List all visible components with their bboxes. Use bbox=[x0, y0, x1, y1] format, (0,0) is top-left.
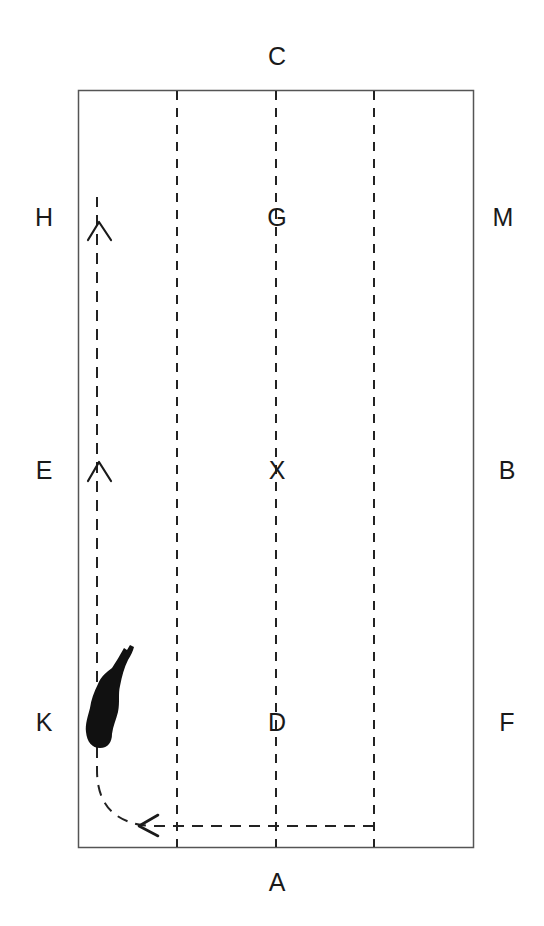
horse-silhouette-icon bbox=[86, 645, 134, 748]
marker-k: K bbox=[36, 710, 53, 735]
movement-path bbox=[97, 197, 374, 826]
arrow-up-icon bbox=[88, 222, 111, 240]
marker-g: G bbox=[267, 205, 286, 230]
dressage-arena-diagram: C H G M E X B K D F A bbox=[0, 0, 544, 926]
arrow-up-icon bbox=[88, 462, 111, 481]
marker-e: E bbox=[36, 458, 53, 483]
marker-x: X bbox=[269, 458, 286, 483]
marker-m: M bbox=[493, 205, 514, 230]
marker-f: F bbox=[499, 710, 514, 735]
marker-b: B bbox=[499, 458, 516, 483]
marker-a: A bbox=[269, 870, 286, 895]
marker-c: C bbox=[268, 44, 286, 69]
marker-d: D bbox=[268, 710, 286, 735]
marker-h: H bbox=[35, 205, 53, 230]
